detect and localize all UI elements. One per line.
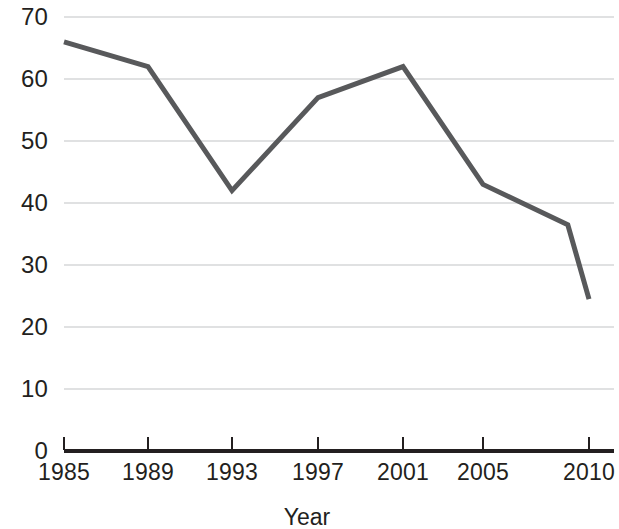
x-axis-tick-label: 1989 bbox=[103, 461, 193, 484]
x-axis-ticks bbox=[64, 437, 589, 450]
x-axis-tick-label: 2005 bbox=[438, 461, 528, 484]
y-axis-tick-label: 10 bbox=[0, 377, 48, 401]
x-axis-tick-label: 1993 bbox=[187, 461, 277, 484]
x-axis-tick-label: 2010 bbox=[544, 461, 619, 484]
x-axis-title: Year bbox=[0, 504, 614, 529]
y-axis-tick-label: 40 bbox=[0, 191, 48, 215]
data-series-line bbox=[64, 42, 589, 299]
y-axis-tick-label: 20 bbox=[0, 315, 48, 339]
y-axis-tick-label: 30 bbox=[0, 253, 48, 277]
y-axis-tick-label: 60 bbox=[0, 67, 48, 91]
gridlines bbox=[64, 17, 614, 389]
x-axis-tick-label: 1997 bbox=[273, 461, 363, 484]
y-axis-tick-label: 50 bbox=[0, 129, 48, 153]
y-axis-tick-label: 70 bbox=[0, 5, 48, 29]
x-axis-tick-label: 1985 bbox=[19, 461, 109, 484]
x-axis-tick-label: 2001 bbox=[358, 461, 448, 484]
